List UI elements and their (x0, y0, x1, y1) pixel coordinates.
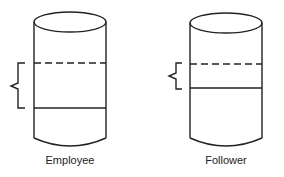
follower-cylinder (169, 13, 262, 146)
follower-bracket (169, 63, 182, 89)
follower-label: Follower (205, 154, 247, 166)
diagram-canvas: Employee Follower (0, 0, 284, 177)
employee-bracket (11, 63, 25, 108)
employee-cylinder (11, 12, 106, 146)
employee-label: Employee (46, 154, 95, 166)
